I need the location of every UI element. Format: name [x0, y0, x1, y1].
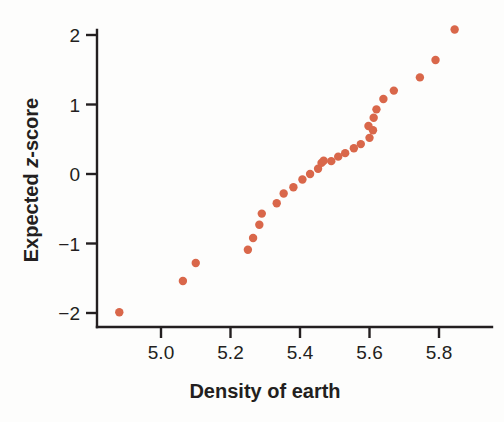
y-axis-title: Expected z-score: [20, 98, 42, 263]
data-point: [192, 259, 200, 267]
data-points-group: [115, 25, 459, 316]
y-axis-title-variable: z: [20, 158, 42, 169]
data-point: [390, 86, 398, 94]
x-tick-label: 5.4: [287, 342, 314, 363]
y-tick-label: 1: [69, 95, 80, 116]
y-tick-label: −2: [58, 303, 80, 324]
y-tick-label: 0: [69, 164, 80, 185]
y-tick-label: 2: [69, 25, 80, 46]
data-point: [416, 73, 424, 81]
y-axis-tick-labels: −2−1012: [58, 25, 80, 324]
data-point: [306, 170, 314, 178]
y-tick-label: −1: [58, 234, 80, 255]
data-point: [255, 221, 263, 229]
data-point: [450, 25, 458, 33]
x-axis-title: Density of earth: [189, 380, 340, 402]
data-point: [289, 183, 297, 191]
x-tick-label: 5.2: [217, 342, 243, 363]
data-point: [369, 114, 377, 122]
data-point: [258, 209, 266, 217]
x-tick-label: 5.8: [426, 342, 452, 363]
x-axis-tick-labels: 5.05.25.45.65.8: [148, 342, 452, 363]
data-point: [365, 134, 373, 142]
data-point: [249, 234, 257, 242]
data-point: [179, 277, 187, 285]
data-point: [327, 157, 335, 165]
scatter-plot: −2−1012 5.05.25.45.65.8 Density of earth…: [0, 0, 504, 422]
y-axis-group: −2−1012: [58, 25, 97, 327]
data-point: [364, 122, 372, 130]
data-point: [319, 157, 327, 165]
y-axis-title-part: -score: [20, 98, 42, 158]
data-point: [244, 246, 252, 254]
data-point: [115, 308, 123, 316]
data-point: [372, 105, 380, 113]
data-point: [341, 149, 349, 157]
data-point: [298, 175, 306, 183]
data-point: [273, 199, 281, 207]
data-point: [379, 95, 387, 103]
y-axis-ticks: [86, 35, 97, 313]
data-point: [279, 189, 287, 197]
data-point: [431, 56, 439, 64]
x-tick-label: 5.6: [356, 342, 382, 363]
x-axis-ticks: [161, 327, 439, 338]
x-axis-group: 5.05.25.45.65.8: [97, 327, 492, 363]
data-point: [357, 140, 365, 148]
chart-figure: −2−1012 5.05.25.45.65.8 Density of earth…: [0, 0, 504, 422]
y-axis-title-part: Expected: [20, 168, 42, 262]
x-tick-label: 5.0: [148, 342, 174, 363]
